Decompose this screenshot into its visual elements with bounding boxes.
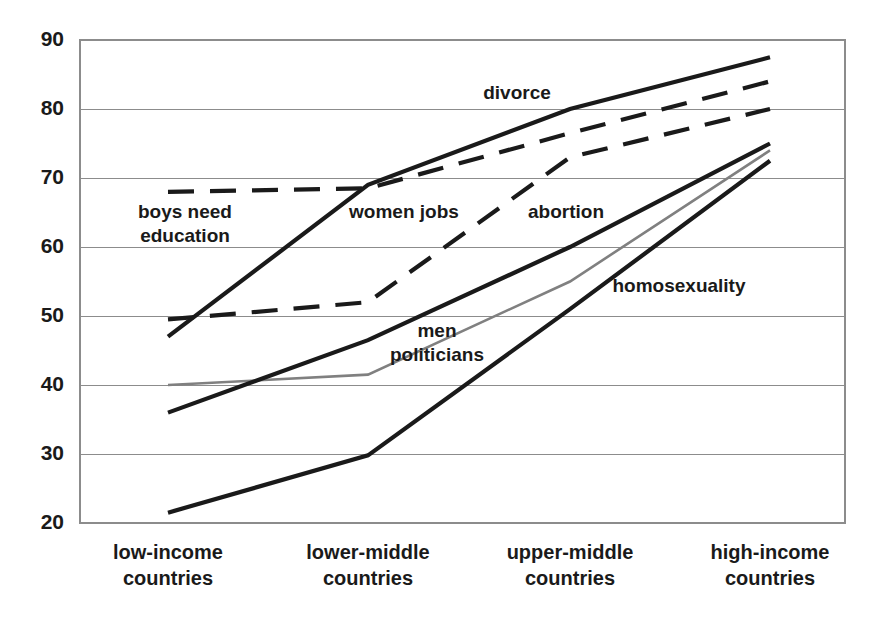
series-label-abortion: abortion: [528, 201, 604, 222]
y-tick-label-70: 70: [41, 165, 64, 188]
series-label-divorce: divorce: [483, 82, 551, 103]
y-tick-label-90: 90: [41, 27, 64, 50]
series-label-women-jobs: women jobs: [348, 201, 459, 222]
y-tick-label-50: 50: [41, 303, 64, 326]
chart-canvas: 2030405060708090 divorcewomen jobsboys n…: [0, 0, 875, 622]
y-tick-label-40: 40: [41, 372, 64, 395]
line-chart: 2030405060708090 divorcewomen jobsboys n…: [0, 0, 875, 622]
y-tick-label-30: 30: [41, 441, 64, 464]
y-tick-label-20: 20: [41, 510, 64, 533]
y-tick-label-60: 60: [41, 234, 64, 257]
y-tick-label-80: 80: [41, 96, 64, 119]
chart-background: [0, 0, 875, 622]
series-label-homosexuality: homosexuality: [612, 275, 745, 296]
